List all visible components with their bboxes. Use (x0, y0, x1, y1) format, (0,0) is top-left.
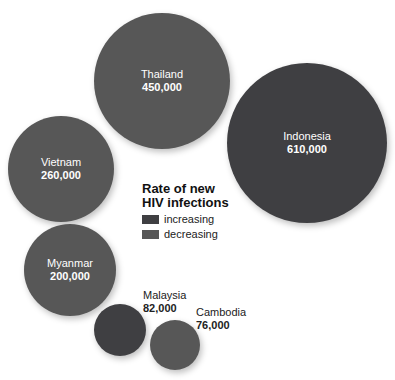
legend-item-increasing: increasing (142, 213, 229, 225)
bubble-value: 200,000 (50, 270, 90, 283)
bubble-indonesia: Indonesia 610,000 (227, 63, 387, 223)
swatch-decreasing (142, 230, 159, 239)
legend-label: decreasing (164, 228, 218, 240)
cambodia-label: Cambodia 76,000 (196, 306, 246, 332)
bubble-label: Myanmar (47, 257, 93, 270)
legend-item-decreasing: decreasing (142, 228, 229, 240)
bubble-label: Thailand (141, 68, 183, 81)
bubble-value: 610,000 (287, 143, 327, 156)
bubble-label: Vietnam (41, 156, 81, 169)
swatch-increasing (142, 215, 159, 224)
legend-title-line1: Rate of new (142, 182, 229, 196)
bubble-value: 450,000 (142, 81, 182, 94)
malaysia-label: Malaysia 82,000 (143, 289, 186, 315)
bubble-label: Indonesia (283, 130, 331, 143)
bubble-label: Cambodia (196, 306, 246, 319)
bubble-value: 82,000 (143, 302, 186, 315)
bubble-cambodia (150, 320, 200, 370)
bubble-label: Malaysia (143, 289, 186, 302)
bubble-malaysia (94, 304, 146, 356)
legend: Rate of new HIV infections increasing de… (142, 182, 229, 240)
bubble-myanmar: Myanmar 200,000 (24, 224, 116, 316)
bubble-thailand: Thailand 450,000 (94, 13, 230, 149)
legend-title-line2: HIV infections (142, 196, 229, 210)
bubble-value: 260,000 (41, 169, 81, 182)
bubble-vietnam: Vietnam 260,000 (8, 116, 114, 222)
legend-label: increasing (164, 213, 214, 225)
bubble-value: 76,000 (196, 319, 246, 332)
